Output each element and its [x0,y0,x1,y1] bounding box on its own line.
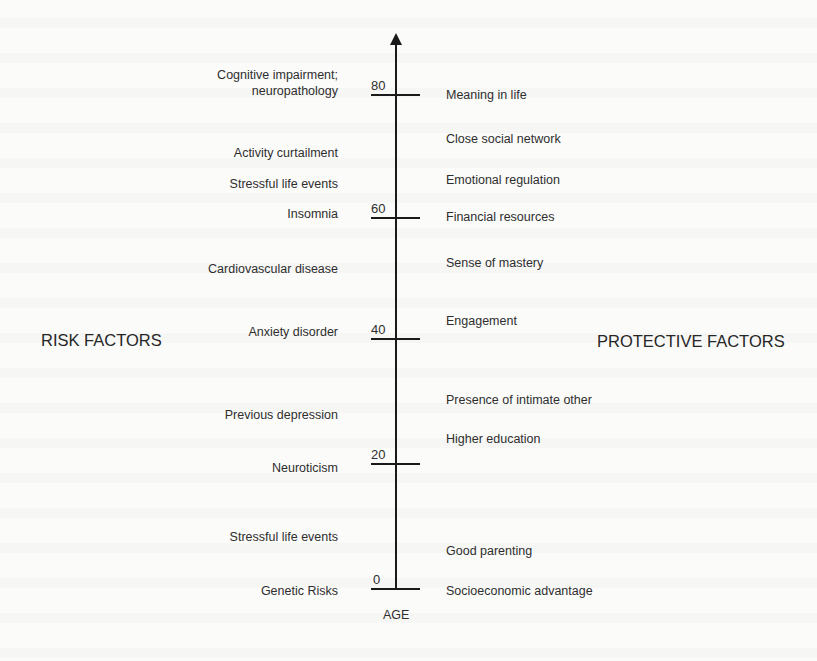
risk-factor-cognitive-line2: neuropathology [217,83,338,99]
protective-factor-meaning: Meaning in life [446,87,527,103]
risk-factor-activity: Activity curtailment [234,145,338,161]
protective-factor-social-network: Close social network [446,131,561,147]
risk-factors-header: RISK FACTORS [41,330,162,350]
risk-factor-stressful-late: Stressful life events [230,176,338,192]
tick-label-20: 20 [371,448,385,462]
risk-factor-previous-depression: Previous depression [225,407,338,423]
risk-factor-anxiety: Anxiety disorder [248,324,338,340]
protective-factor-intimate-other: Presence of intimate other [446,392,592,408]
risk-factor-genetic: Genetic Risks [261,583,338,599]
protective-factor-mastery: Sense of mastery [446,255,543,271]
tick-60 [371,217,420,219]
risk-factor-neuroticism: Neuroticism [272,460,338,476]
tick-label-60: 60 [371,202,385,216]
protective-factor-socioeconomic: Socioeconomic advantage [446,583,593,599]
risk-factor-cognitive-line1: Cognitive impairment; [217,67,338,83]
tick-40 [371,338,420,340]
protective-factor-engagement: Engagement [446,313,517,329]
age-axis-line [395,40,397,590]
protective-factor-emotional-regulation: Emotional regulation [446,172,560,188]
risk-factor-stressful-early: Stressful life events [230,529,338,545]
tick-label-0: 0 [373,573,380,587]
risk-factor-insomnia: Insomnia [287,206,338,222]
protective-factor-parenting: Good parenting [446,543,532,559]
risk-factor-cardiovascular: Cardiovascular disease [208,261,338,277]
tick-80 [371,94,420,96]
protective-factor-financial: Financial resources [446,209,554,225]
tick-label-80: 80 [371,79,385,93]
tick-20 [371,463,420,465]
tick-label-40: 40 [371,323,385,337]
axis-title-age: AGE [383,608,409,622]
tick-0 [371,588,420,590]
risk-factor-cognitive: Cognitive impairment; neuropathology [217,67,338,99]
protective-factor-education: Higher education [446,431,541,447]
protective-factors-header: PROTECTIVE FACTORS [597,331,785,351]
